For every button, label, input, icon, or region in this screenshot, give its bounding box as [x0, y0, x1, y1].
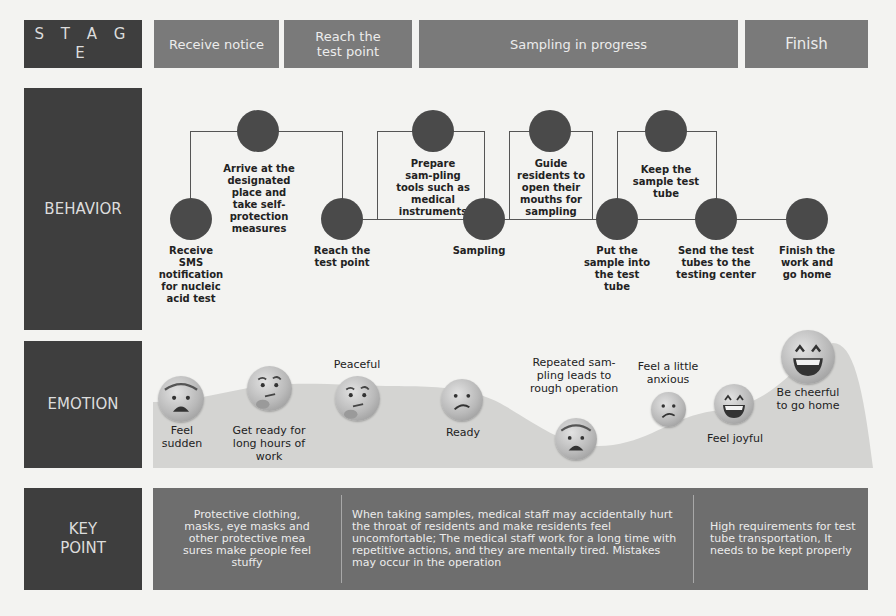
behavior-label-text: BEHAVIOR: [44, 200, 121, 219]
key-point-text: When taking samples, medical staff may a…: [352, 509, 685, 569]
behavior-label: Finish the work and go home: [777, 245, 837, 281]
stage-text: Finish: [785, 37, 828, 52]
connector-line: [509, 131, 510, 219]
behavior-node-keep-tube: [645, 110, 687, 152]
stage-text: Sampling in progress: [510, 37, 647, 52]
behavior-label: Sampling: [444, 245, 514, 257]
key-point-cell: Protective clothing, masks, eye masks an…: [153, 488, 341, 590]
key-point-label-line: KEY: [60, 520, 106, 539]
key-point-text: High requirements for test tube transpor…: [710, 521, 856, 557]
connector-line: [342, 219, 807, 220]
behavior-label: Prepare sam-pling tools such as medical …: [396, 158, 470, 218]
emotion-label: Get ready for long hours of work: [228, 424, 310, 463]
behavior-label: Guide residents to open their mouths for…: [512, 158, 590, 218]
behavior-label: Keep the sample test tube: [630, 164, 702, 200]
key-point-row-label: KEY POINT: [24, 488, 142, 590]
emotion-label: Ready: [435, 426, 491, 439]
behavior-node-guide-residents: [529, 110, 571, 152]
confused-face-icon: [651, 392, 686, 427]
behavior-node-sampling: [463, 198, 505, 240]
emotion-row-label: EMOTION: [24, 341, 142, 468]
key-point-panel: Protective clothing, masks, eye masks an…: [153, 488, 868, 590]
behavior-node-receive-sms: [170, 198, 212, 240]
confused-face-icon: [441, 379, 483, 421]
behavior-node-reach-test-point: [321, 198, 363, 240]
connector-line: [377, 131, 378, 219]
emotion-label: Feel a little anxious: [632, 360, 704, 386]
key-point-label-line: POINT: [60, 539, 106, 558]
grinning-face-icon: [781, 330, 835, 384]
behavior-label: Reach the test point: [307, 245, 377, 269]
behavior-label: Put the sample into the test tube: [582, 245, 652, 293]
stage-text: Receive notice: [169, 37, 264, 52]
behavior-node-finish-work: [786, 198, 828, 240]
connector-line: [592, 131, 593, 219]
behavior-node-arrive: [237, 110, 279, 152]
emotion-label: Repeated sam-pling leads to rough operat…: [524, 356, 624, 395]
key-point-cell: When taking samples, medical staff may a…: [342, 488, 693, 590]
behavior-node-put-sample: [596, 198, 638, 240]
thinking-face-icon: [335, 376, 380, 421]
stage-sampling-in-progress: Sampling in progress: [419, 20, 738, 68]
fearful-face-icon: [555, 418, 597, 460]
emotion-label: Be cheerful to go home: [770, 386, 846, 412]
thinking-face-icon: [247, 366, 292, 411]
grinning-face-icon: [714, 384, 754, 424]
behavior-node-send-tubes: [695, 198, 737, 240]
emotion-label: Peaceful: [325, 358, 389, 371]
stage-label-text: S T A G E: [24, 25, 142, 63]
key-point-text: Protective clothing, masks, eye masks an…: [175, 509, 319, 569]
stage-reach-test-point: Reach the test point: [284, 20, 412, 68]
behavior-row-label: BEHAVIOR: [24, 88, 142, 330]
stage-finish: Finish: [745, 20, 868, 68]
emotion-label: Feel sudden: [150, 424, 214, 450]
behavior-node-prepare-tools: [412, 110, 454, 152]
stage-text: Reach the test point: [308, 29, 388, 59]
stage-receive-notice: Receive notice: [154, 20, 279, 68]
fearful-face-icon: [158, 376, 204, 422]
emotion-label-text: EMOTION: [48, 395, 119, 414]
behavior-label: Arrive at the designated place and take …: [218, 163, 300, 235]
stage-row-label: S T A G E: [24, 20, 142, 68]
behavior-label: Receive SMS notification for nucleic aci…: [156, 245, 226, 305]
key-point-cell: High requirements for test tube transpor…: [694, 488, 868, 590]
emotion-label: Feel joyful: [700, 432, 770, 445]
behavior-label: Send the test tubes to the testing cente…: [676, 245, 756, 281]
